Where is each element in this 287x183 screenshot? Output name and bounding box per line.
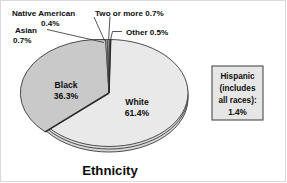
label-other: Other 0.5% xyxy=(126,28,168,37)
label-white: White xyxy=(125,97,149,107)
hispanic-note-line4: 1.4% xyxy=(228,108,247,117)
ethnicity-pie-chart-figure: Native American 0.4% Asian 0.7% Two or m… xyxy=(0,0,287,183)
hispanic-note-line2: (includes xyxy=(220,84,256,93)
label-two-or-more: Two or more 0.7% xyxy=(95,9,164,18)
label-black-pct: 36.3% xyxy=(54,91,79,101)
label-asian-pct: 0.7% xyxy=(13,36,31,45)
hispanic-note-line3: all races): xyxy=(218,96,256,105)
chart-title: Ethnicity xyxy=(82,163,138,178)
hispanic-note-line1: Hispanic xyxy=(220,72,255,81)
label-black: Black xyxy=(55,80,78,90)
leader-two-or-more xyxy=(109,17,110,40)
label-native-american: Native American xyxy=(12,9,75,18)
pie-3d-body xyxy=(20,39,188,152)
label-native-american-pct: 0.4% xyxy=(41,19,59,28)
leader-asian xyxy=(47,30,104,43)
leader-other xyxy=(111,32,122,40)
hispanic-note-box: Hispanic (includes all races): 1.4% xyxy=(212,66,263,120)
label-white-pct: 61.4% xyxy=(125,108,150,118)
pie-chart-canvas: Native American 0.4% Asian 0.7% Two or m… xyxy=(0,0,287,183)
leader-native-american xyxy=(94,17,105,41)
label-asian: Asian xyxy=(15,26,37,35)
